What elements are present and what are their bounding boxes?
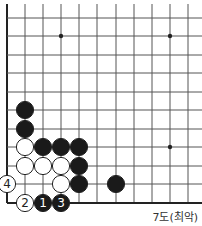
black-stone xyxy=(34,138,51,155)
black-stone xyxy=(70,175,87,192)
white-stone xyxy=(16,138,33,155)
white-stone-2: 2 xyxy=(16,194,33,211)
white-stone xyxy=(52,157,69,174)
star-point xyxy=(59,34,63,38)
stones: 4213 xyxy=(0,101,125,211)
black-stone xyxy=(70,157,87,174)
black-stone xyxy=(70,138,87,155)
move-number: 4 xyxy=(3,177,11,191)
star-point xyxy=(168,145,172,149)
go-board: 4213 xyxy=(0,0,202,226)
white-stone xyxy=(16,157,33,174)
move-number: 2 xyxy=(21,196,29,210)
move-number: 3 xyxy=(57,196,65,210)
black-stone xyxy=(16,101,33,118)
black-stone-3: 3 xyxy=(52,194,69,211)
white-stone xyxy=(34,157,51,174)
black-stone xyxy=(52,138,69,155)
diagram-caption: 7도(최악) xyxy=(152,208,198,224)
black-stone xyxy=(107,175,124,192)
move-number: 1 xyxy=(39,196,47,210)
black-stone-1: 1 xyxy=(34,194,51,211)
white-stone-4: 4 xyxy=(0,175,16,192)
star-point xyxy=(168,34,172,38)
white-stone xyxy=(52,175,69,192)
board-grid xyxy=(7,4,202,203)
black-stone xyxy=(16,120,33,137)
